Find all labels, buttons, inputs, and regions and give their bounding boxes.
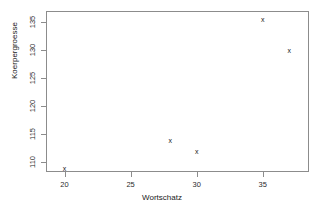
y-axis-tick	[41, 106, 46, 107]
plot-panel	[46, 11, 309, 172]
data-point: x	[61, 165, 68, 172]
y-axis-tick	[41, 22, 46, 23]
y-axis-tick-label: 115	[28, 126, 37, 142]
y-axis-tick-label: 135	[28, 14, 37, 30]
x-axis-label: Wortschatz	[0, 193, 324, 202]
y-axis-tick	[41, 162, 46, 163]
x-axis-tick	[65, 172, 66, 177]
y-axis-tick-label: 125	[28, 70, 37, 86]
data-point: x	[193, 148, 200, 155]
x-axis-tick	[197, 172, 198, 177]
y-axis-label: Koerpergroesse	[10, 5, 19, 97]
y-axis-tick	[41, 78, 46, 79]
data-point: x	[286, 47, 293, 54]
data-point: x	[259, 16, 266, 23]
y-axis-tick-label: 130	[28, 42, 37, 58]
y-axis-tick	[41, 134, 46, 135]
y-axis-tick-label: 110	[28, 154, 37, 170]
x-axis-tick-label: 30	[192, 180, 200, 189]
x-axis-tick-label: 20	[60, 180, 68, 189]
y-axis-tick-label: 120	[28, 98, 37, 114]
y-axis-tick	[41, 50, 46, 51]
scatter-plot-figure: xxxxx 20253035 110115120125130135 Wortsc…	[0, 0, 324, 213]
data-point: x	[167, 137, 174, 144]
x-axis-tick-label: 35	[259, 180, 267, 189]
x-axis-tick	[131, 172, 132, 177]
x-axis-tick	[263, 172, 264, 177]
x-axis-tick-label: 25	[126, 180, 134, 189]
